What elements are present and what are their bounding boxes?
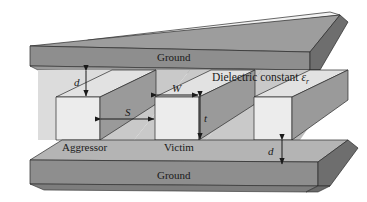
dimension-t-label: t bbox=[204, 113, 207, 124]
top-ground-label: Ground bbox=[157, 52, 191, 63]
epsilon-subscript: r bbox=[306, 77, 309, 86]
figure-canvas: Ground Ground Aggressor Victim Dielectri… bbox=[0, 0, 367, 202]
dimension-s-label: S bbox=[125, 107, 131, 118]
third-front-face bbox=[254, 97, 292, 140]
dimension-d-top-label: d bbox=[74, 77, 80, 88]
dimension-w-label: W bbox=[172, 83, 181, 94]
victim-front-face bbox=[155, 97, 199, 140]
aggressor-front-face bbox=[56, 97, 100, 140]
dimension-d-bottom-label: d bbox=[268, 146, 274, 157]
dielectric-constant-text: Dielectric constant bbox=[212, 71, 299, 83]
bottom-ground-label: Ground bbox=[157, 170, 191, 181]
conductor-aggressor-label: Aggressor bbox=[62, 142, 107, 153]
top-ground-plane bbox=[30, 12, 348, 76]
top-ground-top-face bbox=[30, 15, 340, 52]
dielectric-constant-label: Dielectric constant εr bbox=[212, 72, 309, 86]
conductor-victim-label: Victim bbox=[164, 142, 194, 153]
